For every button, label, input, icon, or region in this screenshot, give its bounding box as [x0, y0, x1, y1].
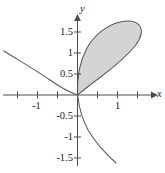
y-tick-label-neg-1-5: -1.5 [56, 153, 73, 164]
y-tick-label-1-5: 1.5 [60, 27, 73, 38]
y-axis-label: y [80, 4, 85, 15]
chart-figure: 1.5 1 0.5 -0.5 -1 -1.5 -1 1 y x [0, 0, 165, 173]
y-axis-arrow-icon [74, 14, 81, 21]
x-axis-label: x [157, 89, 162, 100]
plot-canvas [0, 0, 165, 173]
y-tick-label-neg-0-5: -0.5 [56, 111, 73, 122]
lower-right-branch-curve [78, 95, 117, 163]
x-tick-label-1: 1 [115, 101, 120, 112]
x-tick-label-neg-1: -1 [32, 101, 41, 112]
y-tick-label-neg-1: -1 [64, 132, 73, 143]
y-tick-label-1: 1 [68, 48, 73, 59]
y-tick-label-0-5: 0.5 [60, 69, 73, 80]
shaded-loop-region [77, 21, 141, 95]
